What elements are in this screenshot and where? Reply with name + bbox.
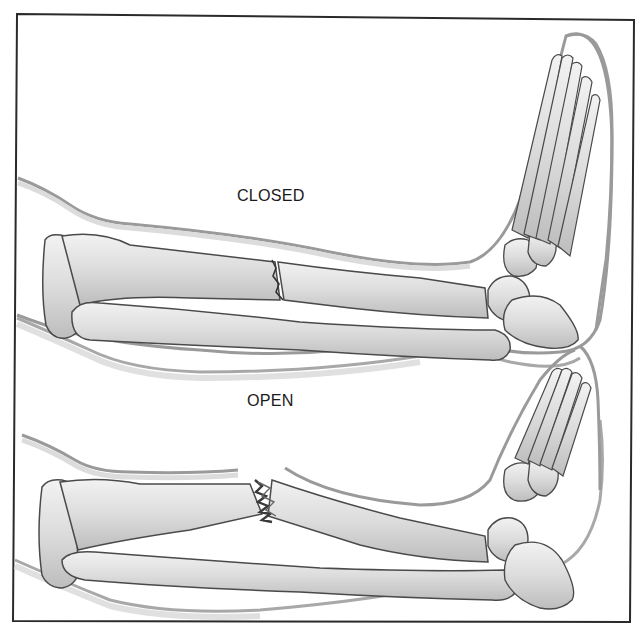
open-fracture-label: OPEN — [247, 391, 294, 411]
closed-fracture-label: CLOSED — [237, 186, 305, 206]
fracture-illustration — [0, 0, 640, 628]
